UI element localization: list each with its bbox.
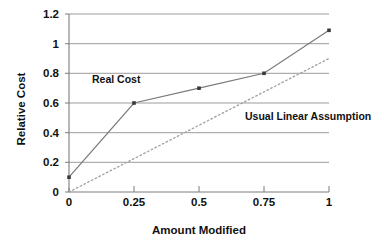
x-tick-label-0.75: 0.75 bbox=[253, 196, 275, 208]
data-point-marker bbox=[327, 29, 331, 33]
y-axis-ticks bbox=[65, 14, 69, 192]
y-tick-label-1: 1 bbox=[53, 38, 59, 50]
x-axis-ticks bbox=[69, 186, 329, 192]
x-tick-label-1: 1 bbox=[326, 196, 332, 208]
y-tick-label-0: 0 bbox=[53, 186, 59, 198]
data-point-marker bbox=[262, 72, 266, 76]
chart-container: 1.2 1 0.8 0.6 0.4 0.2 0 0 0.25 0.5 0.75 … bbox=[0, 0, 384, 252]
y-tick-label-0.6: 0.6 bbox=[43, 97, 59, 109]
data-point-marker bbox=[132, 101, 136, 105]
y-tick-label-0.2: 0.2 bbox=[43, 156, 59, 168]
x-tick-label-0: 0 bbox=[66, 196, 72, 208]
y-tick-label-0.4: 0.4 bbox=[43, 127, 59, 139]
series-label-usual-linear-assumption: Usual Linear Assumption bbox=[245, 110, 371, 122]
y-tick-label-0.8: 0.8 bbox=[43, 67, 59, 79]
series-real-cost bbox=[67, 29, 331, 180]
y-tick-label-1.2: 1.2 bbox=[43, 8, 59, 20]
x-axis-title: Amount Modified bbox=[69, 224, 329, 236]
data-point-marker bbox=[67, 175, 71, 179]
data-point-marker bbox=[197, 86, 201, 90]
y-axis-title: Relative Cost bbox=[15, 49, 27, 169]
x-tick-label-0.5: 0.5 bbox=[191, 196, 207, 208]
series-label-real-cost: Real Cost bbox=[92, 73, 140, 85]
x-tick-label-0.25: 0.25 bbox=[123, 196, 145, 208]
